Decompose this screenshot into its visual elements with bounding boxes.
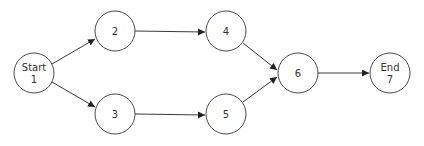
node-3: 3 (95, 94, 135, 134)
node-start: Start 1 (14, 53, 54, 93)
edge-1-2 (52, 39, 95, 64)
diagram-canvas: Start 1 2 3 4 5 6 End 7 (0, 0, 424, 146)
node-4: 4 (206, 11, 246, 51)
edge-3-5 (135, 114, 205, 115)
node-2: 2 (95, 11, 135, 51)
edge-4-6 (243, 43, 277, 70)
node-label: 2 (112, 26, 118, 37)
network-diagram: Start 1 2 3 4 5 6 End 7 (0, 0, 424, 146)
node-5: 5 (206, 94, 246, 134)
node-circle (14, 53, 54, 93)
edge-5-6 (243, 77, 277, 102)
node-label: 6 (295, 68, 301, 79)
node-circle (370, 53, 410, 93)
node-end: End 7 (370, 53, 410, 93)
node-6: 6 (278, 53, 318, 93)
node-label: 5 (223, 109, 229, 120)
node-label: 3 (112, 109, 118, 120)
node-label-line1: End (380, 62, 399, 73)
node-label-line2: 7 (387, 74, 393, 85)
node-label-line1: Start (22, 62, 47, 73)
node-label: 4 (223, 26, 229, 37)
node-label-line2: 1 (31, 74, 37, 85)
edge-1-3 (52, 82, 95, 107)
edge-2-4 (135, 31, 205, 32)
